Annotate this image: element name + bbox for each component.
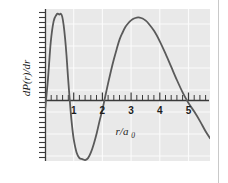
xtick-label-4: 4 bbox=[157, 105, 163, 116]
xtick-label-5: 5 bbox=[186, 105, 192, 116]
x-axis-title-main: r/a bbox=[116, 125, 129, 137]
x-axis-title-subscript: 0 bbox=[131, 131, 135, 140]
xtick-label-2: 2 bbox=[100, 105, 106, 116]
figure-right-border-rule bbox=[218, 0, 219, 183]
y-axis-ticks bbox=[39, 13, 45, 158]
radial-probability-derivative-chart: 1 2 3 4 5 r/a 0 dP(r)/dr bbox=[0, 0, 228, 183]
xtick-label-1: 1 bbox=[71, 105, 77, 116]
figure-root: 1 2 3 4 5 r/a 0 dP(r)/dr bbox=[0, 0, 228, 183]
xtick-label-3: 3 bbox=[128, 105, 134, 116]
plot-panel bbox=[45, 9, 210, 161]
y-axis-title: dP(r)/dr bbox=[20, 59, 33, 96]
